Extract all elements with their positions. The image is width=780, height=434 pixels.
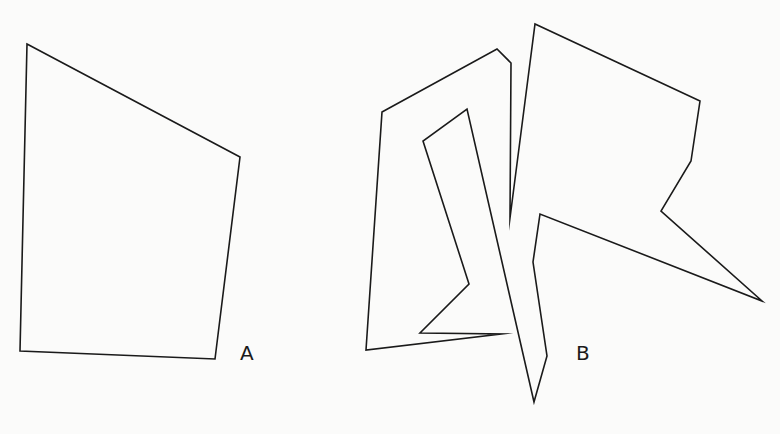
polygon-b bbox=[366, 24, 762, 402]
label-b: B bbox=[576, 343, 590, 363]
polygon-a bbox=[20, 44, 240, 359]
label-a: A bbox=[240, 343, 254, 363]
diagram-canvas bbox=[0, 0, 780, 434]
